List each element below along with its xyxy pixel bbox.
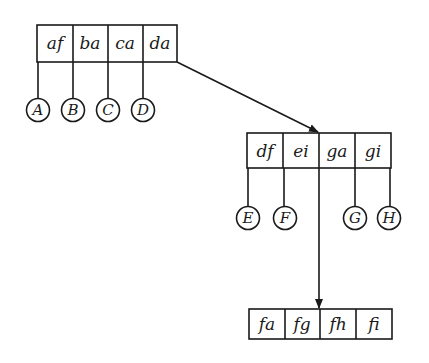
root-key-1: af [47, 33, 66, 53]
bottom-key-3: fh [327, 314, 346, 334]
svg-text:E: E [242, 209, 254, 227]
svg-text:C: C [102, 101, 114, 119]
leaf-H: H [378, 207, 401, 230]
svg-text:G: G [349, 209, 361, 227]
root-key-2: ba [79, 33, 100, 53]
bottom-key-4: fi [366, 314, 379, 334]
svg-text:B: B [66, 101, 78, 119]
leaf-B: B [62, 99, 85, 122]
root-node: af ba ca da A B C D [27, 25, 178, 122]
b-tree-diagram: af ba ca da A B C D df e [0, 0, 429, 363]
arrow-root-to-middle [177, 62, 318, 132]
bottom-node: fa fg fh fi [249, 309, 392, 339]
svg-text:D: D [136, 101, 149, 119]
svg-text:H: H [381, 209, 396, 227]
bottom-key-2: fg [291, 314, 310, 334]
leaf-A: A [27, 99, 50, 122]
svg-text:A: A [31, 101, 44, 119]
middle-key-4: gi [365, 141, 381, 161]
leaf-D: D [132, 99, 155, 122]
leaf-C: C [97, 99, 120, 122]
root-key-4: da [149, 33, 170, 53]
svg-text:F: F [279, 209, 291, 227]
middle-key-1: df [256, 141, 276, 161]
leaf-E: E [237, 207, 260, 230]
middle-key-2: ei [293, 141, 309, 161]
middle-key-3: ga [326, 141, 347, 161]
leaf-G: G [344, 207, 367, 230]
root-key-3: ca [115, 33, 135, 53]
leaf-F: F [274, 207, 297, 230]
bottom-key-1: fa [257, 314, 275, 334]
